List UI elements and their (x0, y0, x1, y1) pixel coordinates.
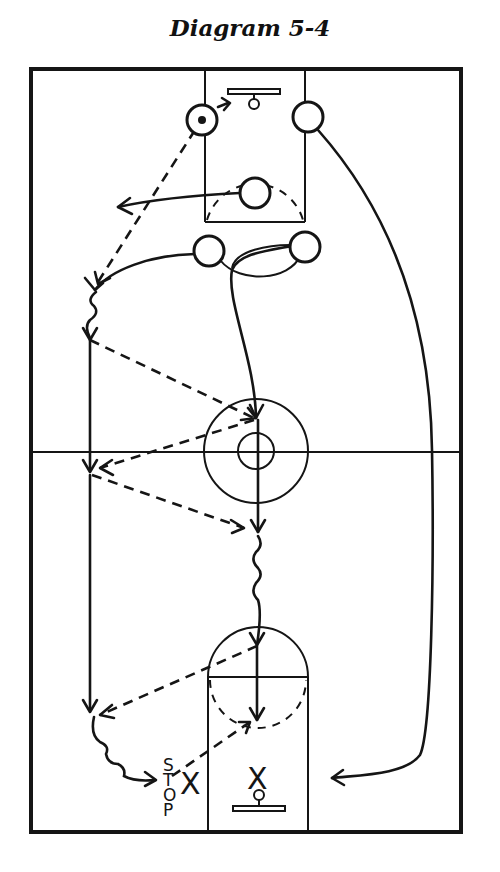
player-left-elbow (194, 236, 224, 266)
defender-x-mark: X (180, 766, 201, 801)
stop-label: S T O P (162, 755, 176, 820)
svg-text:P: P (163, 800, 173, 820)
court-diagram: S T O P X X (0, 0, 500, 872)
player-top-right (293, 102, 323, 132)
player-free-throw (240, 178, 270, 208)
ball-icon (198, 116, 206, 124)
player-right-elbow (290, 232, 320, 262)
players (187, 102, 323, 266)
defender-x-mark-basket: X (247, 761, 268, 796)
basket-icon (249, 99, 259, 109)
